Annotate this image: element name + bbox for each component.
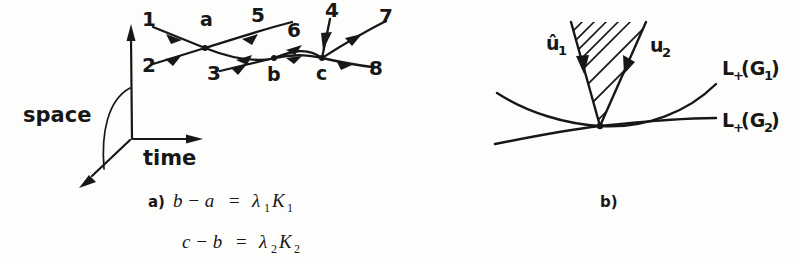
vertex-a-dot [202,45,208,51]
time-axis-label: time [143,146,196,170]
equation-2-coeff-sub: 2 [271,242,277,256]
vertex-label-b: b [267,63,281,85]
leg-label-3: 3 [207,61,221,85]
panel-b-tag: b) [600,193,618,211]
curve-LG2 [495,118,716,144]
worldline-bc-arrowhead [286,56,302,64]
leg-label-5: 5 [251,3,265,27]
time-axis-arrowhead [186,135,203,144]
equation-2: c − b = λ 2 K 2 [182,231,300,256]
vertex-label-c: c [316,62,327,84]
curves-intersection-dot [597,123,603,129]
leg-label-2: 2 [142,53,156,77]
panel-a-axes: space time [23,24,203,188]
axis-angle-arc [103,88,130,169]
panel-a-tag: a) [148,193,165,211]
worldline-7-arrowhead [345,34,362,46]
equation-1-equals: = [229,190,240,211]
leg-label-7: 7 [379,4,393,28]
vertex-label-a: a [200,8,213,30]
leg-label-6: 6 [287,18,301,42]
cone-label-u2: u 2 [650,34,671,60]
equation-2-sym-sub: 2 [294,242,300,256]
vertex-b-dot [271,55,277,61]
equation-1-sym: K [271,190,286,211]
space-axis-line [131,38,132,139]
equation-1: b − a = λ 1 K 1 [173,190,293,215]
third-axis-arrowhead [79,175,96,188]
cone-label-u2-sub: 2 [662,45,671,60]
figure-root: space time [0,0,799,264]
cone-label-u1: û 1 [546,32,567,58]
equation-2-coeff: λ [258,231,267,252]
curve-label-LG1: L + (G 1 ) [722,57,780,83]
leg-label-1: 1 [142,7,156,31]
equation-2-lhs: c − b [182,231,222,252]
equation-1-sym-sub: 1 [287,201,293,215]
space-axis-arrowhead [127,24,136,41]
curve-label-LG1-arg: (G [741,57,765,79]
curve-label-LG2-close: ) [771,109,780,131]
curve-label-LG1-close: ) [771,57,780,79]
cone-hatching [520,0,732,176]
worldline-2-arrowhead [165,56,181,66]
cone-edge-u1 [571,22,600,126]
equation-1-coeff-sub: 1 [264,201,270,215]
cone-label-u1-sub: 1 [558,43,567,58]
equation-2-sym: K [278,231,293,252]
curve-label-LG2-arg: (G [741,109,765,131]
vertex-c-dot [319,55,325,61]
space-axis-label: space [23,103,91,127]
third-axis-line [92,140,130,176]
panel-b-diagram [495,0,732,176]
equation-2-equals: = [236,231,247,252]
curve-label-LG2: L + (G 2 ) [722,109,780,135]
cone-edge-u2 [600,22,646,126]
equation-1-lhs: b − a [173,190,214,211]
figure-canvas: space time [0,0,799,264]
worldline-4-arrowhead [321,32,332,50]
leg-label-8: 8 [369,56,383,80]
leg-label-4: 4 [325,0,339,22]
panel-a-caption: a) b − a = λ 1 K 1 c − b = λ 2 K 2 [148,190,300,256]
equation-1-coeff: λ [251,190,260,211]
